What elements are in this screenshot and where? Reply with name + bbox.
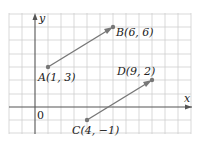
point-b-label: B(6, 6) <box>115 26 154 39</box>
point-d-label: D(9, 2) <box>116 65 155 78</box>
vector-ab <box>46 25 115 69</box>
x-axis-label: x <box>184 92 191 105</box>
origin-label: 0 <box>37 109 44 122</box>
y-axis-label: y <box>38 12 46 25</box>
point-c <box>85 118 89 122</box>
point-a-label: A(1, 3) <box>37 71 76 84</box>
point-d <box>150 78 154 82</box>
vector-cd <box>85 78 154 122</box>
coordinate-diagram: x y 0 A(1, 3) B(6, 6) C(4, −1) D(9, 2) <box>0 0 198 142</box>
point-c-label: C(4, −1) <box>72 124 119 137</box>
point-b <box>111 25 115 29</box>
point-a <box>46 65 50 69</box>
